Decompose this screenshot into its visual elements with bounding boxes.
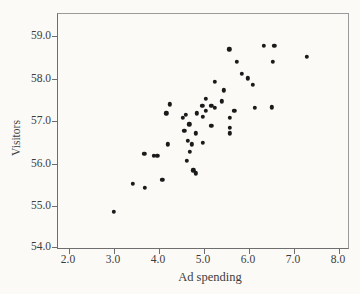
x-tick-label: 7.0	[277, 253, 309, 265]
data-point	[204, 97, 208, 101]
data-point	[201, 115, 205, 119]
y-tick-mark	[52, 121, 57, 122]
data-point	[222, 88, 226, 92]
plot-area	[57, 13, 349, 249]
data-point	[246, 76, 250, 80]
y-tick-label: 59.0	[13, 29, 51, 41]
data-point	[143, 186, 147, 190]
y-tick-mark	[52, 206, 57, 207]
data-point	[213, 80, 217, 84]
y-tick-mark	[52, 36, 57, 37]
data-point	[213, 106, 217, 110]
x-axis-title: Ad spending	[150, 270, 270, 285]
y-tick-label: 54.0	[13, 240, 51, 252]
data-point	[142, 152, 146, 156]
data-point	[155, 154, 159, 158]
data-point	[181, 116, 185, 120]
y-tick-label: 58.0	[13, 72, 51, 84]
x-tick-label: 2.0	[52, 253, 84, 265]
data-point	[204, 109, 208, 113]
y-tick-mark	[52, 79, 57, 80]
y-tick-mark	[52, 247, 57, 248]
data-point	[166, 142, 170, 146]
data-point	[131, 182, 135, 186]
x-tick-label: 5.0	[187, 253, 219, 265]
y-tick-label: 55.0	[13, 199, 51, 211]
data-point	[305, 55, 309, 59]
data-point	[220, 99, 224, 103]
data-point	[200, 104, 204, 108]
x-tick-label: 8.0	[322, 253, 354, 265]
data-point	[160, 178, 164, 182]
data-point	[164, 111, 168, 115]
y-tick-label: 57.0	[13, 114, 51, 126]
x-tick-label: 6.0	[232, 253, 264, 265]
data-point	[190, 142, 194, 146]
data-point	[182, 129, 186, 133]
data-point	[194, 131, 198, 135]
data-point	[187, 122, 191, 126]
data-point	[112, 210, 116, 214]
data-point	[185, 159, 189, 163]
data-point	[168, 102, 172, 106]
data-point	[270, 105, 274, 109]
data-point	[228, 131, 232, 135]
x-tick-label: 4.0	[142, 253, 174, 265]
data-point	[251, 83, 255, 87]
data-point	[262, 44, 266, 48]
data-point	[240, 72, 244, 76]
data-point	[188, 150, 192, 154]
y-tick-label: 56.0	[13, 157, 51, 169]
x-tick-label: 3.0	[97, 253, 129, 265]
data-point	[228, 116, 232, 120]
data-point	[271, 60, 275, 64]
data-point	[232, 109, 236, 113]
data-point	[253, 106, 257, 110]
data-point	[235, 60, 239, 64]
data-point	[272, 44, 276, 48]
data-point	[195, 111, 199, 115]
data-point	[194, 171, 198, 175]
data-point	[201, 141, 205, 145]
data-point	[227, 47, 231, 51]
data-point	[209, 124, 213, 128]
data-point	[228, 126, 232, 130]
scatter-figure: Visitors Ad spending 59.058.057.056.055.…	[0, 0, 360, 294]
y-tick-mark	[52, 164, 57, 165]
